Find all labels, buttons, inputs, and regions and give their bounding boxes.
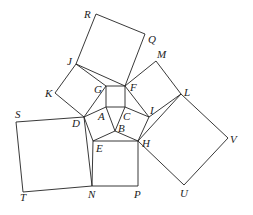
point-label-L: L xyxy=(183,86,190,98)
point-label-C: C xyxy=(123,110,131,122)
point-label-E: E xyxy=(95,142,103,154)
point-label-T: T xyxy=(20,191,27,203)
point-label-A: A xyxy=(97,110,105,122)
point-label-K: K xyxy=(44,87,53,99)
segment-NE xyxy=(92,141,93,186)
point-label-G: G xyxy=(94,83,102,95)
point-label-B: B xyxy=(118,122,125,134)
segment-HL xyxy=(138,94,181,141)
point-label-Q: Q xyxy=(148,33,156,45)
point-label-S: S xyxy=(15,108,21,120)
segment-KD xyxy=(55,93,84,117)
point-label-P: P xyxy=(133,188,141,200)
segment-ML xyxy=(156,61,181,94)
point-label-N: N xyxy=(87,188,96,200)
point-label-R: R xyxy=(83,8,91,20)
point-label-M: M xyxy=(156,48,167,60)
geometry-diagram: RQJMKGFLACISDBEHVTNPU xyxy=(0,0,253,215)
segment-RQ xyxy=(96,14,145,34)
segment-BA xyxy=(106,107,115,131)
point-label-V: V xyxy=(230,133,238,145)
point-label-F: F xyxy=(129,81,137,93)
point-label-I: I xyxy=(149,104,155,116)
segment-group xyxy=(16,14,228,192)
point-label-U: U xyxy=(180,187,189,199)
segment-VU xyxy=(184,138,228,185)
segment-JR xyxy=(76,14,96,64)
segment-NT xyxy=(23,186,92,192)
point-label-J: J xyxy=(67,55,73,67)
segment-LI xyxy=(149,94,181,117)
point-label-D: D xyxy=(71,117,80,129)
segment-TS xyxy=(16,122,23,192)
point-label-H: H xyxy=(141,137,151,149)
segment-LV xyxy=(181,94,228,138)
segment-JK xyxy=(55,64,76,93)
label-group: RQJMKGFLACISDBEHVTNPU xyxy=(15,8,238,203)
segment-EB xyxy=(93,131,115,141)
